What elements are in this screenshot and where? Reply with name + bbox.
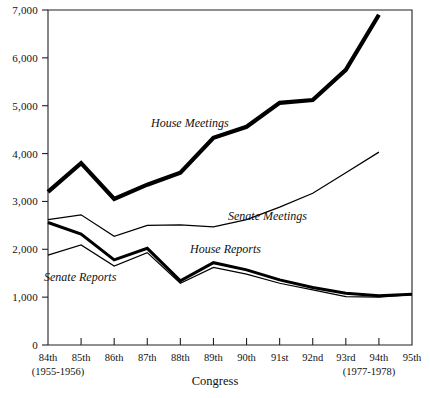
x-tick-sublabel-84th: (1955-1956) — [32, 366, 85, 378]
series-annotation-senate-reports: Senate Reports — [44, 270, 117, 284]
chart-background — [0, 0, 430, 398]
y-tick-label: 4,000 — [12, 148, 38, 160]
x-tick-label-90th: 90th — [237, 352, 256, 363]
series-annotation-house-meetings: House Meetings — [150, 116, 229, 130]
y-tick-label: 3,000 — [12, 195, 38, 207]
x-axis-title: Congress — [192, 374, 239, 388]
y-tick-label: 0 — [32, 339, 38, 351]
chart-container: 01,0002,0003,0004,0005,0006,0007,000 84t… — [0, 0, 430, 398]
x-tick-label-86th: 86th — [105, 352, 124, 363]
x-tick-label-94th: 94th — [370, 352, 389, 363]
y-tick-label: 1,000 — [12, 291, 38, 303]
x-tick-label-85th: 85th — [72, 352, 91, 363]
line-chart: 01,0002,0003,0004,0005,0006,0007,000 84t… — [0, 0, 430, 398]
x-tick-sublabel-94th: (1977-1978) — [343, 366, 396, 378]
series-annotation-senate-meetings: Senate Meetings — [228, 209, 307, 223]
x-tick-label-91st: 91st — [271, 352, 289, 363]
y-tick-label: 7,000 — [12, 4, 38, 16]
x-tick-label-84th: 84th — [39, 352, 58, 363]
x-tick-label-92nd: 92nd — [302, 352, 324, 363]
x-tick-label-95th: 95th — [403, 352, 422, 363]
series-annotation-house-reports: House Reports — [189, 242, 261, 256]
x-tick-label-93rd: 93rd — [336, 352, 356, 363]
y-tick-label: 5,000 — [12, 100, 38, 112]
x-tick-label-89th: 89th — [204, 352, 223, 363]
y-tick-label: 6,000 — [12, 52, 38, 64]
x-tick-label-87th: 87th — [138, 352, 157, 363]
x-tick-label-88th: 88th — [171, 352, 190, 363]
y-tick-label: 2,000 — [12, 243, 38, 255]
